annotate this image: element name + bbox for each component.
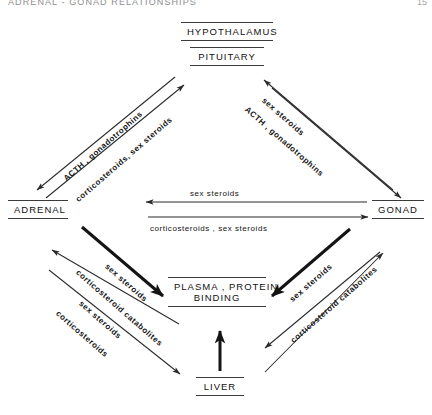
page-number: 15 [417, 0, 427, 7]
node-hypothalamus[interactable]: HYPOTHALAMUS [181, 22, 273, 41]
node-hypothalamus-label: HYPOTHALAMUS [187, 26, 278, 37]
node-pituitary[interactable]: PITUITARY [190, 47, 264, 66]
page-header-title: ADRENAL - GONAD RELATIONSHIPS [8, 0, 197, 7]
node-plasma-protein-binding[interactable]: PLASMA , PROTEIN BINDING [168, 277, 266, 307]
node-gonad-label: GONAD [378, 204, 418, 215]
node-adrenal-label: ADRENAL [14, 204, 66, 215]
node-plasma-label-line1: PLASMA , PROTEIN [174, 281, 260, 292]
edge-label-corticosteroid-catabolites-lower-right: corticosteroid catabolites [289, 265, 379, 345]
edge-plasma-to-adrenal [52, 250, 179, 324]
node-liver[interactable]: LIVER [196, 377, 244, 396]
node-adrenal[interactable]: ADRENAL [8, 200, 68, 219]
node-gonad[interactable]: GONAD [372, 200, 424, 219]
node-liver-label: LIVER [204, 381, 236, 392]
node-pituitary-label: PITUITARY [198, 51, 256, 62]
diagram-page: ADRENAL - GONAD RELATIONSHIPS 15 [0, 0, 432, 415]
edge-label-corticosteroids-sex-steroids-middle: corticosteroids , sex steroids [150, 224, 267, 233]
edge-label-sex-steroids-middle: sex steroids [190, 189, 239, 198]
node-plasma-label-line2: BINDING [174, 292, 260, 303]
edge-label-sex-steroids-lower-right: sex steroids [288, 262, 334, 304]
